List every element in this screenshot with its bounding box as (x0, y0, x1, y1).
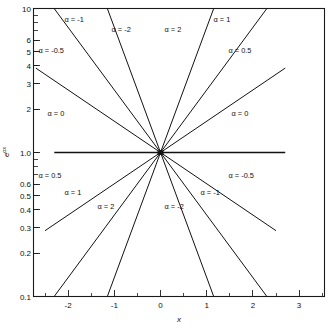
curve-label: α = 2 (98, 202, 115, 211)
x-tick-label: -1 (111, 301, 119, 310)
x-tick-label: 0 (158, 301, 163, 310)
y-axis-title-exponent: αx (1, 147, 7, 153)
curve-label: α = 0.5 (39, 171, 62, 180)
y-tick-label: 0.4 (20, 206, 32, 215)
semilog-plot-svg: 0.10.20.30.40.50.61.02345610 -2-10123 α … (0, 0, 335, 328)
y-tick-label: 4 (27, 62, 32, 71)
y-tick-label: 3 (27, 80, 32, 89)
curve-label: α = 1 (65, 188, 82, 197)
curve-label: α = -2 (165, 202, 184, 211)
x-tick-label: 2 (251, 301, 256, 310)
curve-label: α = 0 (232, 109, 249, 118)
y-tick-label: 0.1 (20, 293, 32, 302)
y-tick-label: 6 (27, 36, 32, 45)
curve-label: α = -2 (112, 25, 131, 34)
y-tick-label: 0.3 (20, 224, 32, 233)
convergence-point (157, 150, 163, 155)
y-tick-label: 2 (27, 105, 32, 114)
x-tick-label: -2 (65, 301, 73, 310)
convergence-marker (157, 150, 163, 155)
curve-label: α = 2 (165, 25, 182, 34)
x-tick-label: 1 (204, 301, 209, 310)
y-tick-label: 5 (27, 48, 32, 57)
y-tick-label: 0.2 (20, 249, 32, 258)
x-tick-label: 3 (297, 301, 302, 310)
y-tick-label: 1.0 (20, 149, 32, 158)
chart-figure: 0.10.20.30.40.50.61.02345610 -2-10123 α … (0, 0, 335, 328)
curve-label: α = -0.5 (229, 171, 254, 180)
curve-label: α = -1 (65, 15, 84, 24)
y-tick-label: 0.5 (20, 192, 32, 201)
curve-label: α = 0 (48, 109, 65, 118)
curve-label: α = 1 (214, 15, 231, 24)
curve-label: α = -1 (201, 188, 220, 197)
y-tick-label: 10 (22, 5, 31, 14)
curve-label: α = 0.5 (229, 46, 252, 55)
y-tick-label: 0.6 (20, 180, 32, 189)
curve-label: α = -0.5 (39, 46, 64, 55)
